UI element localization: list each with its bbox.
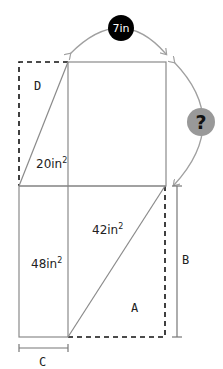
area-42-label: 42in2 [92,222,123,237]
area-48-label: 48in2 [31,256,62,271]
region-a-label: A [131,301,139,315]
bracket-c-label: C [39,355,46,369]
bracket-b-label: B [182,253,189,267]
area-diagram: 7in ? D 20in2 42in2 48in2 A B C [0,0,223,369]
area-20-label: 20in2 [36,156,67,171]
side-dimension-badge: ? [187,108,215,136]
bracket-b [172,186,182,337]
bracket-c [19,344,68,352]
upper-rectangle [68,62,166,186]
side-dimension-label: ? [195,111,206,133]
lower-diagonal [68,186,165,337]
top-dimension-badge: 7in [108,15,134,41]
top-dimension-label: 7in [112,22,129,35]
region-d-label: D [34,79,41,93]
